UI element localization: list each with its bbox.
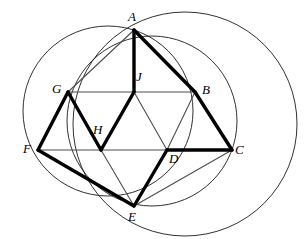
- edge-A-B-thick: [134, 30, 195, 92]
- vertex-label-f: F: [23, 142, 31, 155]
- edge-F-G-thick: [38, 92, 68, 150]
- geometry-canvas: [0, 0, 307, 239]
- vertex-label-a: A: [128, 10, 136, 23]
- vertex-label-h: H: [93, 123, 102, 136]
- circles-group: [23, 12, 297, 236]
- edge-B-D: [167, 92, 195, 150]
- vertex-label-c: C: [235, 143, 244, 156]
- vertex-label-j: J: [136, 70, 142, 83]
- edge-E-F-thick: [38, 150, 134, 206]
- vertex-label-e: E: [128, 210, 136, 223]
- edge-J-D: [134, 92, 167, 150]
- vertex-label-d: D: [169, 152, 178, 165]
- edge-B-C-thick: [195, 92, 232, 150]
- left-circle: [23, 26, 193, 196]
- edge-A-G: [68, 30, 134, 92]
- right-circle: [73, 12, 297, 236]
- vertex-label-g: G: [52, 82, 61, 95]
- geometry-figure: ABCDEFGHJ: [0, 0, 307, 239]
- vertex-label-b: B: [202, 83, 210, 96]
- edge-D-E-thick: [134, 150, 167, 206]
- edge-H-J-thick: [101, 92, 134, 150]
